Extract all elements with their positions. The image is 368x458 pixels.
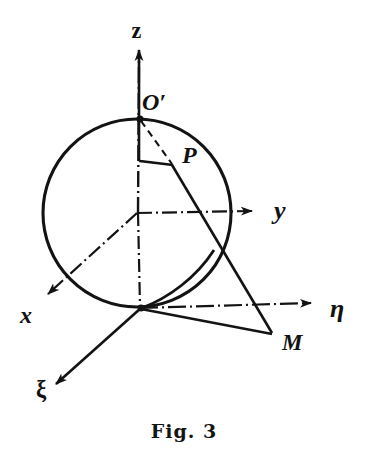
axis-label-z: z xyxy=(131,18,141,42)
axis-label-eta: η xyxy=(330,296,344,322)
line-p-to-m xyxy=(172,165,272,333)
figure-drawing xyxy=(0,0,368,458)
axis-y-line xyxy=(137,211,252,213)
centre-to-contact-line xyxy=(138,213,140,306)
point-label-p: P xyxy=(182,143,197,167)
point-label-m: M xyxy=(282,331,302,354)
axis-label-xi: ξ xyxy=(36,378,46,402)
axis-xi-line xyxy=(56,308,141,384)
figure-caption: Fig. 3 xyxy=(0,420,368,442)
p-horizontal-tick xyxy=(139,160,173,165)
point-label-o-prime: O′ xyxy=(142,90,166,114)
chord-oprime-p xyxy=(141,121,172,164)
point-oprime-dot xyxy=(136,115,143,122)
axis-label-y: y xyxy=(274,198,286,224)
line-contact-to-m xyxy=(141,309,272,334)
axis-label-x: x xyxy=(20,303,32,327)
figure-container: z O′ P y x η M ξ Fig. 3 xyxy=(0,0,368,458)
point-contact-dot xyxy=(138,305,145,312)
axis-x-line xyxy=(48,213,137,294)
